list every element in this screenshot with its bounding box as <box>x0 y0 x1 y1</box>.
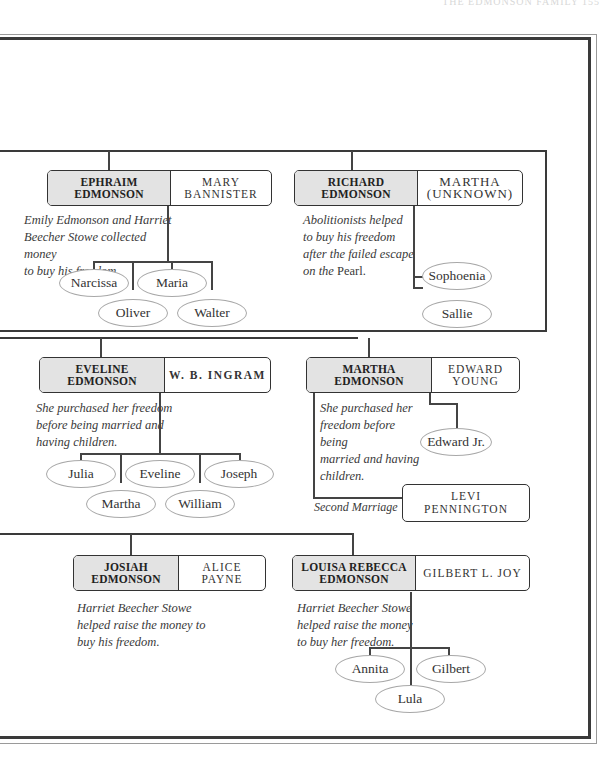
name-line: JOSIAH <box>91 561 160 573</box>
child-drop <box>199 453 201 483</box>
note-line: Beecher Stowe collected money <box>24 229 174 263</box>
person-josiah-edmonson: JOSIAH EDMONSON <box>74 556 179 590</box>
couple-louisa: LOUISA REBECCA EDMONSON GILBERT L. JOY <box>292 555 530 591</box>
martha-first-branch <box>429 403 457 405</box>
name-line: (UNKNOWN) <box>427 188 513 200</box>
note-martha: She purchased her freedom before being m… <box>320 400 420 485</box>
child-eveline: Eveline <box>125 460 195 488</box>
richard-connector <box>351 151 353 170</box>
note-line: She purchased her freedom <box>36 400 186 417</box>
name-line: LEVI <box>424 490 508 503</box>
person-richard-edmonson: RICHARD EDMONSON <box>295 171 418 205</box>
note-line: married and having <box>320 451 420 468</box>
child-annita: Annita <box>335 655 405 683</box>
note-line: Emily Edmonson and Harriet <box>24 212 174 229</box>
row1-right-drop <box>545 150 547 332</box>
child-branch <box>413 287 423 289</box>
note-line: buy his freedom. <box>77 634 207 651</box>
person-louisa-rebecca-edmonson: LOUISA REBECCA EDMONSON <box>293 556 416 590</box>
note-line: freedom before being <box>320 417 420 451</box>
person-gilbert-l-joy: GILBERT L. JOY <box>416 556 529 590</box>
note-line: helped raise the money <box>297 617 427 634</box>
note-line: helped raise the money to <box>77 617 207 634</box>
child-narcissa: Narcissa <box>59 269 129 297</box>
person-wb-ingram: W. B. INGRAM <box>165 358 270 392</box>
couple-josiah: JOSIAH EDMONSON ALICE PAYNE <box>73 555 266 591</box>
ephraim-connector <box>108 151 110 170</box>
note-line: Harriet Beecher Stowe <box>77 600 207 617</box>
eveline-descent <box>159 393 161 453</box>
running-head: THE EDMONSON FAMILY 155 <box>330 0 600 8</box>
second-marriage-label: Second Marriage <box>314 499 414 516</box>
name-line: EDWARD <box>448 363 503 375</box>
child-sallie: Sallie <box>422 300 492 328</box>
child-sophoenia: Sophoenia <box>422 262 492 290</box>
martha-first-drop <box>456 403 458 428</box>
row3-sibling-line <box>0 533 354 535</box>
name-line: EVELINE <box>67 363 136 375</box>
name-line: ALICE <box>201 561 242 573</box>
couple-eveline: EVELINE EDMONSON W. B. INGRAM <box>39 357 271 393</box>
second-marriage-line <box>313 393 315 498</box>
name-line: EDMONSON <box>74 188 143 200</box>
row1-bottom-line <box>0 330 547 332</box>
couple-ephraim: EPHRAIM EDMONSON MARY BANNISTER <box>47 170 272 206</box>
name-line: EDMONSON <box>334 375 403 387</box>
child-julia: Julia <box>46 460 116 488</box>
person-mary-bannister: MARY BANNISTER <box>171 171 271 205</box>
child-drop <box>93 261 95 269</box>
note-louisa: Harriet Beecher Stowe helped raise the m… <box>297 600 427 651</box>
note-line: before being married and <box>36 417 186 434</box>
child-martha: Martha <box>86 490 156 518</box>
row1-sibling-line <box>0 150 547 152</box>
note-eveline: She purchased her freedom before being m… <box>36 400 186 451</box>
couple-richard: RICHARD EDMONSON MARTHA (UNKNOWN) <box>294 170 523 206</box>
name-line: GILBERT L. JOY <box>423 567 521 579</box>
louisa-children-bar <box>369 647 449 649</box>
person-ephraim-edmonson: EPHRAIM EDMONSON <box>48 171 171 205</box>
name-line: BANNISTER <box>184 188 258 200</box>
child-oliver: Oliver <box>98 299 168 327</box>
child-drop <box>369 647 371 655</box>
child-walter: Walter <box>177 299 247 327</box>
child-drop <box>132 261 134 290</box>
child-joseph: Joseph <box>204 460 274 488</box>
name-line: EDMONSON <box>91 573 160 585</box>
child-maria: Maria <box>137 269 207 297</box>
note-line: She purchased her <box>320 400 420 417</box>
person-eveline-edmonson: EVELINE EDMONSON <box>40 358 165 392</box>
name-line: MARY <box>184 176 258 188</box>
name-line: LOUISA REBECCA <box>301 561 406 573</box>
child-gilbert: Gilbert <box>416 655 486 683</box>
person-alice-payne: ALICE PAYNE <box>179 556 265 590</box>
child-drop <box>171 261 173 269</box>
note-line: Harriet Beecher Stowe <box>297 600 427 617</box>
eveline-connector <box>100 338 102 357</box>
name-line: RICHARD <box>321 176 390 188</box>
louisa-descent <box>410 592 412 692</box>
row2-sibling-line-right <box>290 337 358 339</box>
ephraim-children-bar <box>93 261 212 263</box>
child-lula: Lula <box>375 685 445 713</box>
child-drop <box>120 453 122 483</box>
note-josiah: Harriet Beecher Stowe helped raise the m… <box>77 600 207 651</box>
name-line: EPHRAIM <box>74 176 143 188</box>
note-line: having children. <box>36 434 186 451</box>
name-line: EDMONSON <box>301 573 406 585</box>
martha-connector <box>368 338 370 357</box>
child-drop <box>448 647 450 655</box>
name-line: EDMONSON <box>321 188 390 200</box>
louisa-connector <box>352 533 354 555</box>
child-edward-jr: Edward Jr. <box>420 428 492 456</box>
person-edward-young: EDWARD YOUNG <box>432 358 519 392</box>
josiah-connector <box>130 534 132 555</box>
note-text: on the <box>303 264 334 278</box>
ephraim-descent <box>167 206 169 261</box>
eveline-children-bar <box>80 453 240 455</box>
note-line: children. <box>320 468 420 485</box>
name-line: W. B. INGRAM <box>169 369 266 381</box>
name-line: YOUNG <box>448 375 503 387</box>
name-line: EDMONSON <box>67 375 136 387</box>
child-drop <box>211 261 213 290</box>
couple-martha: MARTHA EDMONSON EDWARD YOUNG <box>306 357 520 393</box>
